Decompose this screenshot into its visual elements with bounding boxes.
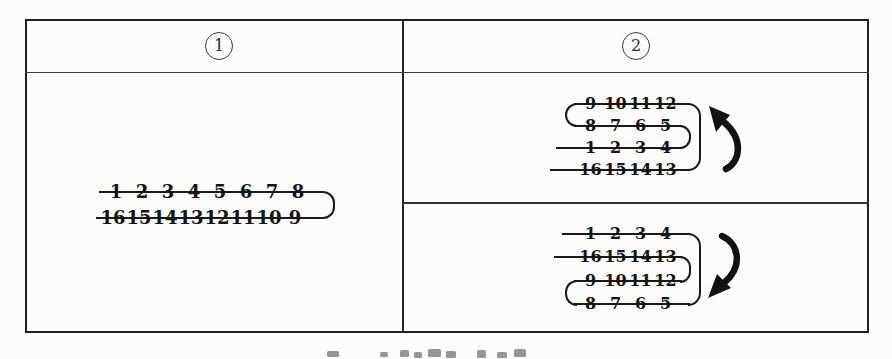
- page-number: 14: [628, 247, 653, 266]
- page-number: 2: [603, 138, 628, 157]
- cropped-caption: [320, 347, 535, 359]
- page-number: 7: [259, 181, 285, 202]
- page-number: 2: [129, 181, 155, 202]
- page-number: 1: [103, 181, 129, 202]
- fold-direction-arrow-down-icon: [702, 231, 748, 303]
- page-number: 5: [653, 294, 678, 313]
- page-number: 11: [628, 271, 653, 290]
- table-panel-divider: [403, 202, 869, 204]
- page-number: 5: [653, 116, 678, 135]
- page-number: 12: [204, 207, 230, 228]
- page-number-row: 9101112: [578, 94, 678, 113]
- page-number: 1: [578, 224, 603, 243]
- page-number: 13: [178, 207, 204, 228]
- page-number: 12: [653, 94, 678, 113]
- page-number: 9: [578, 94, 603, 113]
- page-number: 11: [230, 207, 256, 228]
- page-number-row: 1234: [578, 138, 678, 157]
- circled-number-2: 2: [622, 32, 650, 60]
- page-number: 16: [100, 207, 126, 228]
- page-number: 4: [653, 224, 678, 243]
- page-number: 10: [256, 207, 282, 228]
- fold-direction-arrow-up-icon: [702, 102, 748, 174]
- page-number: 14: [628, 160, 653, 179]
- page-number: 9: [282, 207, 308, 228]
- page-number: 4: [181, 181, 207, 202]
- page-number: 15: [126, 207, 152, 228]
- page-number: 15: [603, 247, 628, 266]
- page-number: 10: [603, 271, 628, 290]
- circled-number-1: 1: [205, 32, 233, 60]
- page-number: 5: [207, 181, 233, 202]
- page-number-row: 9101112: [578, 271, 678, 290]
- page-number-row: 16151413: [578, 247, 678, 266]
- table-header-divider: [25, 72, 869, 73]
- page-number-row: 12345678: [103, 181, 311, 202]
- fold-curve-connector: [688, 233, 701, 306]
- imposition-folding-figure: 1 2 12345678 161514131211109 9101112 876…: [0, 0, 892, 359]
- page-number: 14: [152, 207, 178, 228]
- page-number: 3: [155, 181, 181, 202]
- page-number: 4: [653, 138, 678, 157]
- page-number-row: 8765: [578, 294, 678, 313]
- page-number: 16: [578, 160, 603, 179]
- table-column-divider: [402, 19, 404, 333]
- page-number: 7: [603, 116, 628, 135]
- page-number: 1: [578, 138, 603, 157]
- page-number: 6: [628, 116, 653, 135]
- page-number-row: 16151413: [578, 160, 678, 179]
- page-number-row: 1234: [578, 224, 678, 243]
- page-number: 7: [603, 294, 628, 313]
- page-number: 9: [578, 271, 603, 290]
- page-number: 3: [628, 138, 653, 157]
- page-number: 3: [628, 224, 653, 243]
- fold-curve-connector: [688, 103, 701, 171]
- page-number-row: 8765: [578, 116, 678, 135]
- page-number: 16: [578, 247, 603, 266]
- page-number-row: 161514131211109: [100, 207, 308, 228]
- page-number: 6: [233, 181, 259, 202]
- page-number: 15: [603, 160, 628, 179]
- page-number: 8: [285, 181, 311, 202]
- page-number: 10: [603, 94, 628, 113]
- page-number: 8: [578, 294, 603, 313]
- page-number: 13: [653, 247, 678, 266]
- page-number: 8: [578, 116, 603, 135]
- page-number: 12: [653, 271, 678, 290]
- page-number: 6: [628, 294, 653, 313]
- page-number: 11: [628, 94, 653, 113]
- page-number: 13: [653, 160, 678, 179]
- page-number: 2: [603, 224, 628, 243]
